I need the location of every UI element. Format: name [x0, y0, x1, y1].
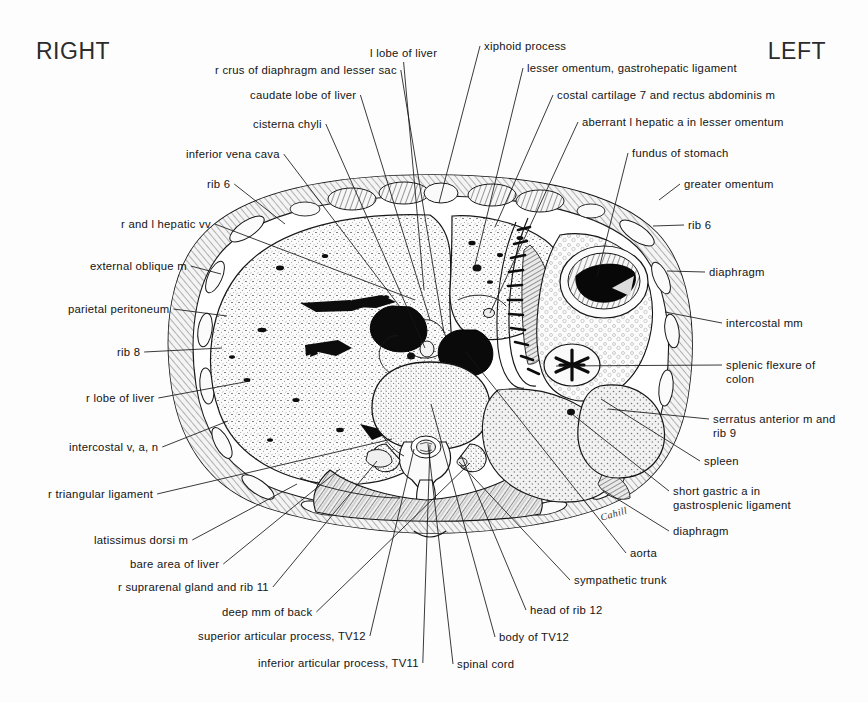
label-l-lobe-of-liver: l lobe of liver	[370, 46, 437, 60]
label-costal-cartilage-7-and-rectus: costal cartilage 7 and rectus abdominis …	[557, 88, 775, 102]
label-body-of-tv12: body of TV12	[499, 630, 569, 644]
label-caudate-lobe-of-liver: caudate lobe of liver	[250, 88, 356, 102]
label-r-lobe-of-liver: r lobe of liver	[86, 391, 154, 405]
anatomy-figure-page: RIGHT LEFT Cahill l lobe of liverxiphoid…	[0, 0, 868, 703]
label-bare-area-of-liver: bare area of liver	[130, 557, 219, 571]
label-r-and-l-hepatic-vv: r and l hepatic vv	[121, 217, 211, 231]
label-fundus-of-stomach: fundus of stomach	[632, 146, 729, 160]
label-spinal-cord: spinal cord	[457, 657, 514, 671]
label-rib-6-left-upper: rib 6	[207, 177, 230, 191]
label-r-crus-of-diaphragm-and-lesser-sac: r crus of diaphragm and lesser sac	[215, 63, 397, 77]
orientation-heading-left: LEFT	[768, 38, 826, 65]
label-rib-8: rib 8	[117, 345, 140, 359]
label-serratus-anterior-m-and-rib-9: serratus anterior m and rib 9	[713, 412, 836, 440]
label-latissimus-dorsi-m: latissimus dorsi m	[94, 533, 188, 547]
label-diaphragm-right-upper: diaphragm	[709, 265, 765, 279]
label-parietal-peritoneum: parietal peritoneum	[68, 302, 169, 316]
label-aorta: aorta	[630, 546, 657, 560]
inferior-vena-cava	[370, 306, 427, 352]
label-intercostal-mm: intercostal mm	[726, 316, 803, 330]
label-lesser-omentum-gastrohepatic-ligament: lesser omentum, gastrohepatic ligament	[527, 61, 737, 75]
label-spleen: spleen	[704, 454, 739, 468]
label-inferior-vena-cava: inferior vena cava	[186, 147, 280, 161]
label-cisterna-chyli: cisterna chyli	[253, 117, 322, 131]
label-sympathetic-trunk: sympathetic trunk	[574, 573, 667, 587]
label-deep-mm-of-back: deep mm of back	[222, 605, 312, 619]
label-xiphoid-process: xiphoid process	[484, 39, 566, 53]
label-aberrant-l-hepatic-a: aberrant l hepatic a in lesser omentum	[582, 115, 784, 129]
label-rib-6-right: rib 6	[688, 218, 711, 232]
label-external-oblique-m: external oblique m	[90, 259, 187, 273]
label-head-of-rib-12: head of rib 12	[530, 603, 603, 617]
label-intercostal-v-a-n: intercostal v, a, n	[69, 440, 158, 454]
splenic-flexure-of-colon	[544, 344, 600, 386]
label-greater-omentum: greater omentum	[684, 177, 774, 191]
label-short-gastric-a-in-gastrosplenic: short gastric a in gastrosplenic ligamen…	[673, 484, 791, 512]
label-r-suprarenal-gland-and-rib-11: r suprarenal gland and rib 11	[118, 580, 269, 594]
orientation-heading-right: RIGHT	[36, 38, 110, 65]
short-gastric-artery	[567, 409, 575, 415]
label-superior-articular-process-tv12: superior articular process, TV12	[198, 629, 366, 643]
label-r-triangular-ligament: r triangular ligament	[48, 487, 153, 501]
label-splenic-flexure-of-colon: splenic flexure of colon	[726, 358, 815, 386]
fundus-of-stomach	[560, 246, 648, 318]
label-inferior-articular-process-tv11: inferior articular process, TV11	[258, 656, 419, 670]
sympathetic-trunk	[457, 458, 467, 466]
label-diaphragm-right-lower: diaphragm	[673, 524, 729, 538]
